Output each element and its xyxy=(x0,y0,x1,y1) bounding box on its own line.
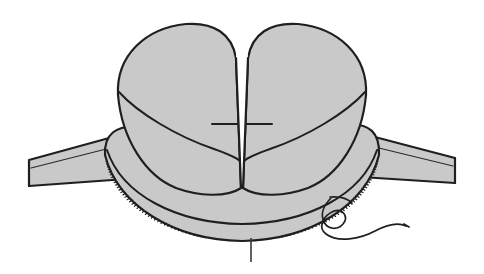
surgical-illustration: Surgical line illustration: split tubula… xyxy=(0,0,484,274)
illustration-canvas: Surgical line illustration: split tubula… xyxy=(0,0,484,274)
